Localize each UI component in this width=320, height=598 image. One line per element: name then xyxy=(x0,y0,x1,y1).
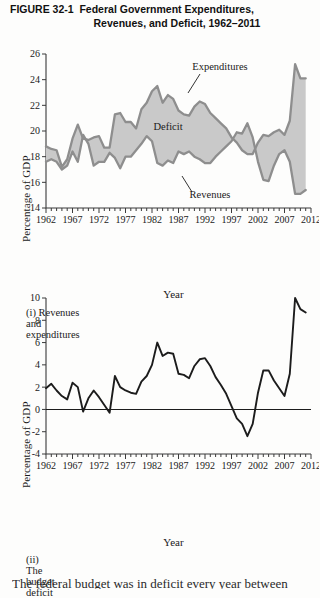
annotation-expenditures: Expenditures xyxy=(192,61,247,72)
figure-label: FIGURE 32-1 xyxy=(10,3,74,15)
figure-title: FIGURE 32-1 Federal Government Expenditu… xyxy=(10,3,310,30)
svg-text:24: 24 xyxy=(30,74,40,85)
svg-text:1967: 1967 xyxy=(63,460,83,471)
svg-text:1987: 1987 xyxy=(169,460,189,471)
svg-text:1992: 1992 xyxy=(195,214,215,225)
panel2-svg: -4-2024681019621967197219771982198719921… xyxy=(24,288,319,484)
svg-text:22: 22 xyxy=(30,100,40,111)
svg-text:1967: 1967 xyxy=(63,214,83,225)
svg-text:4: 4 xyxy=(35,359,40,370)
figure-title-line2: Revenues, and Deficit, 1962–2011 xyxy=(10,17,310,31)
svg-text:2007: 2007 xyxy=(275,460,295,471)
svg-text:2012: 2012 xyxy=(301,214,319,225)
svg-text:1987: 1987 xyxy=(169,214,189,225)
svg-text:1977: 1977 xyxy=(116,214,136,225)
svg-text:1972: 1972 xyxy=(89,214,109,225)
svg-text:1962: 1962 xyxy=(36,214,56,225)
figure-title-line1: Federal Government Expenditures, xyxy=(79,3,253,15)
svg-text:18: 18 xyxy=(30,151,40,162)
svg-text:16: 16 xyxy=(30,177,40,188)
annotation-revenues: Revenues xyxy=(190,189,231,200)
svg-text:1982: 1982 xyxy=(142,460,162,471)
body-paragraph: The federal budget was in deficit every … xyxy=(12,576,312,589)
svg-text:2007: 2007 xyxy=(275,214,295,225)
svg-text:1962: 1962 xyxy=(36,460,56,471)
svg-text:10: 10 xyxy=(30,292,40,303)
svg-text:2002: 2002 xyxy=(248,214,268,225)
svg-text:-4: -4 xyxy=(32,448,40,459)
svg-text:1982: 1982 xyxy=(142,214,162,225)
svg-text:6: 6 xyxy=(35,337,40,348)
panel2-plot: -4-2024681019621967197219771982198719921… xyxy=(24,288,319,484)
svg-text:1992: 1992 xyxy=(195,460,215,471)
svg-text:1972: 1972 xyxy=(89,460,109,471)
annotation-deficit: Deficit xyxy=(153,121,182,132)
svg-text:-2: -2 xyxy=(32,426,40,437)
panel1-svg: 1416182022242619621967197219771982198719… xyxy=(24,46,319,236)
panel2-x-axis-label: Year xyxy=(14,536,320,548)
svg-text:26: 26 xyxy=(30,48,40,59)
svg-text:1977: 1977 xyxy=(116,460,136,471)
svg-text:2: 2 xyxy=(35,382,40,393)
svg-text:2002: 2002 xyxy=(248,460,268,471)
svg-text:20: 20 xyxy=(30,125,40,136)
svg-text:8: 8 xyxy=(35,315,40,326)
svg-text:14: 14 xyxy=(30,202,40,213)
panel1-plot: 1416182022242619621967197219771982198719… xyxy=(24,46,319,236)
svg-text:1997: 1997 xyxy=(222,214,242,225)
svg-text:1997: 1997 xyxy=(222,460,242,471)
svg-text:2012: 2012 xyxy=(301,460,319,471)
svg-text:0: 0 xyxy=(35,404,40,415)
